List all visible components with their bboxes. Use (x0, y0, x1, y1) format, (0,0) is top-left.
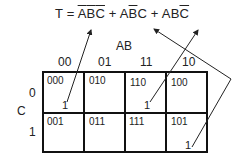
equation-lhs: T (55, 6, 63, 21)
term-3: ABC (162, 6, 189, 21)
cell-value: 1 (144, 99, 150, 111)
cell-code: 011 (89, 116, 105, 127)
row-variable-label: C (17, 104, 26, 118)
col-label-10: 10 (182, 55, 195, 69)
kmap-lines (0, 0, 246, 161)
boolean-equation: T = ABC + ABC + ABC (55, 6, 189, 21)
row-label-1: 1 (29, 125, 36, 139)
equals-sign: = (67, 6, 75, 21)
cell-code: 111 (129, 116, 144, 127)
row-label-0: 0 (29, 86, 36, 100)
cell-code: 101 (171, 116, 188, 127)
cell-code: 000 (47, 75, 64, 86)
col-label-00: 00 (58, 55, 71, 69)
cell-code: 110 (130, 77, 146, 88)
cell-code: 010 (89, 75, 106, 86)
cell-value: 1 (62, 99, 68, 111)
term-2: ABC (120, 6, 147, 21)
col-label-01: 01 (98, 55, 111, 69)
column-variable-label: AB (116, 39, 132, 53)
cell-code: 001 (47, 116, 64, 127)
cell-code: 100 (171, 77, 188, 88)
term-1: ABC (78, 6, 105, 21)
col-label-11: 11 (140, 55, 152, 69)
cell-value: 1 (185, 139, 191, 151)
